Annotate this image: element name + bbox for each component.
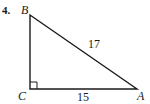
vertex-label-c: C [18, 89, 27, 103]
triangle-abc [30, 15, 137, 89]
leg-ca-length-label: 15 [77, 90, 89, 104]
vertex-label-a: A [136, 89, 145, 103]
triangle-figure: 4. B C A 17 15 [0, 0, 150, 104]
vertex-label-b: B [21, 3, 29, 17]
right-angle-marker [30, 82, 37, 89]
hypotenuse-length-label: 17 [88, 37, 100, 51]
problem-number: 4. [2, 4, 11, 16]
